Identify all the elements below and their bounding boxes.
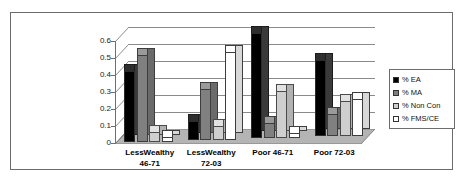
- legend-label: % Non Con: [402, 101, 440, 110]
- bar: [225, 52, 236, 140]
- legend-swatch-icon: [393, 116, 399, 122]
- bar-face: [188, 121, 199, 140]
- bar-top: [264, 116, 275, 123]
- y-axis-tick-leader: [115, 44, 130, 59]
- legend-label: % EA: [402, 75, 421, 84]
- y-axis-tick-label: 0.1: [89, 122, 111, 130]
- bar-side: [173, 130, 180, 135]
- x-axis-category-label: Poor 72-03: [297, 147, 371, 158]
- bar-top: [137, 48, 148, 55]
- y-axis-tick-label: 0.5: [89, 54, 111, 62]
- bar-top: [225, 45, 236, 52]
- x-axis-category-label-line: Poor 72-03: [297, 147, 371, 158]
- bar-face: [289, 133, 300, 138]
- bar-top: [352, 92, 363, 99]
- bar: [340, 101, 351, 137]
- bar-face: [200, 89, 211, 140]
- legend-swatch-icon: [393, 90, 399, 96]
- bar-face: [264, 123, 275, 138]
- bar-side: [287, 84, 294, 132]
- bar: [137, 55, 148, 142]
- bar-face: [149, 132, 160, 142]
- y-axis-tick-label: 0: [89, 139, 111, 147]
- bar: [276, 91, 287, 139]
- legend-label: % MA: [402, 88, 422, 97]
- bar-face: [352, 99, 363, 136]
- chart-frame: Percent of Total Flows 0.60.50.40.30.20.…: [10, 12, 453, 170]
- bar-top: [213, 119, 224, 126]
- y-axis-tick-label: 0.2: [89, 105, 111, 113]
- bar-face: [251, 33, 262, 138]
- bar-face: [340, 101, 351, 137]
- y-axis-tick-label: 0.6: [89, 37, 111, 45]
- legend-swatch-icon: [393, 77, 399, 83]
- legend-swatch-icon: [393, 103, 399, 109]
- bar-side: [236, 45, 243, 133]
- bar-top: [327, 107, 338, 114]
- legend-item[interactable]: % FMS/CE: [393, 112, 451, 125]
- bar: [124, 71, 135, 142]
- bar-top: [124, 64, 135, 71]
- legend-label: % FMS/CE: [402, 114, 439, 123]
- bar-face: [225, 52, 236, 140]
- bar: [289, 133, 300, 138]
- bar-face: [276, 91, 287, 139]
- bar-face: [315, 60, 326, 137]
- bar: [352, 99, 363, 136]
- bar-side: [363, 92, 370, 129]
- bar-face: [124, 71, 135, 142]
- bar-top: [315, 53, 326, 60]
- bar-top: [289, 126, 300, 133]
- bar-top: [162, 130, 173, 137]
- bar: [327, 114, 338, 136]
- bar-face: [162, 137, 173, 142]
- bar: [251, 33, 262, 138]
- bar-top: [340, 94, 351, 101]
- plot-area: 0.60.50.40.30.20.10 LessWealthy46-71Less…: [11, 13, 452, 169]
- y-axis-tick-label: 0.3: [89, 88, 111, 96]
- bar-top: [200, 82, 211, 89]
- bar-face: [327, 114, 338, 136]
- bar-top: [149, 125, 160, 132]
- y-axis-tick-label: 0.4: [89, 71, 111, 79]
- legend-item[interactable]: % EA: [393, 73, 451, 86]
- bar: [188, 121, 199, 140]
- bar-face: [213, 126, 224, 140]
- bar: [162, 137, 173, 142]
- legend-item[interactable]: % Non Con: [393, 99, 451, 112]
- x-axis-category-label-line: 72-03: [174, 158, 248, 169]
- bar: [315, 60, 326, 137]
- bar: [149, 132, 160, 142]
- bar-side: [148, 48, 155, 135]
- y-axis-line: [115, 41, 116, 143]
- y-axis-tick-leader: [115, 27, 130, 42]
- legend-item[interactable]: % MA: [393, 86, 451, 99]
- bar: [264, 123, 275, 138]
- bar-top: [188, 114, 199, 121]
- bar: [213, 126, 224, 140]
- chart-legend: % EA% MA% Non Con% FMS/CE: [389, 69, 455, 129]
- bar-top: [251, 26, 262, 33]
- bar-face: [137, 55, 148, 142]
- bar: [200, 89, 211, 140]
- bar-top: [276, 84, 287, 91]
- bar-side: [300, 126, 307, 131]
